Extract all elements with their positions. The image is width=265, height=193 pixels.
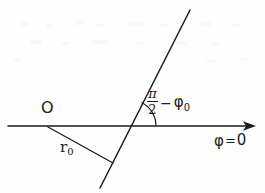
polar-axis-label-value: 0 <box>237 131 247 149</box>
polar-axis-label: φ=0 <box>214 133 246 148</box>
diagram-svg <box>0 0 265 193</box>
angle-label-phi: φ0 <box>174 95 190 113</box>
polar-axis-label-equals: = <box>225 133 236 148</box>
radius-label-subscript: 0 <box>67 146 73 157</box>
radius-label: r0 <box>60 140 74 157</box>
polar-axis-label-phi: φ <box>214 132 224 150</box>
angle-label-denominator: 2 <box>147 102 157 116</box>
angle-label-phi-base: φ <box>174 93 184 111</box>
angle-label: π 2 − φ0 <box>147 88 190 117</box>
origin-point-label: O <box>41 100 54 116</box>
angle-label-fraction: π 2 <box>147 87 158 116</box>
radius-segment <box>48 127 113 163</box>
angle-label-phi-subscript: 0 <box>184 101 190 112</box>
figure-canvas: O r0 φ=0 π 2 − φ0 <box>0 0 265 193</box>
angle-label-minus: − <box>160 96 172 110</box>
angle-label-numerator: π <box>147 87 158 101</box>
